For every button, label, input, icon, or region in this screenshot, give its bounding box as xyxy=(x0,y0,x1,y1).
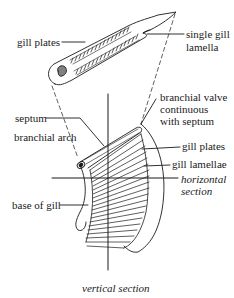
leader-gill-plates-main xyxy=(142,147,180,149)
label-gill-plates-top: gill plates xyxy=(17,36,60,48)
label-septum: septum xyxy=(15,112,47,124)
label-single-gill-lamella-1: single gill xyxy=(186,28,230,40)
label-branchial-arch: branchial arch xyxy=(14,131,77,143)
label-horizontal-section-2: section xyxy=(181,185,212,197)
leader-gill-lamellae xyxy=(144,165,170,166)
single-lamella-detail xyxy=(48,12,176,85)
label-branchial-valve-2: continuous xyxy=(160,103,208,115)
label-single-gill-lamella-2: lamella xyxy=(186,41,218,53)
label-branchial-valve-3: with septum xyxy=(160,115,214,127)
label-base-of-gill: base of gill xyxy=(12,199,61,211)
label-gill-plates-main: gill plates xyxy=(182,140,225,152)
leader-branchial-valve xyxy=(141,99,156,124)
label-branchial-valve-1: branchial valve xyxy=(160,91,228,103)
gill-arch-main xyxy=(76,124,164,252)
label-horizontal-section-1: horizontal xyxy=(181,173,226,185)
label-gill-lamellae: gill lamellae xyxy=(172,158,227,170)
label-vertical-section: vertical section xyxy=(82,282,150,294)
